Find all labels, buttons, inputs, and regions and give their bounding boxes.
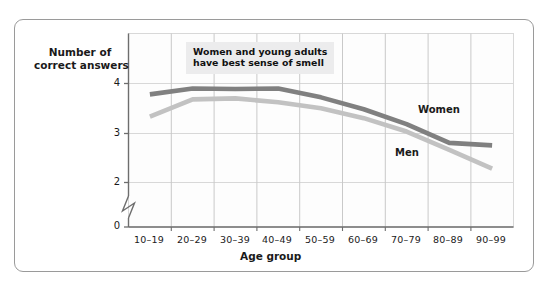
x-tick-label-90-99: 90–99 <box>468 234 514 246</box>
y-tick-label-3: 3 <box>104 127 120 139</box>
y-axis-title-line2: correct answers <box>34 59 129 71</box>
y-axis-title: Number ofcorrect answers <box>34 46 126 72</box>
annotation-line1: Women and young adults <box>193 46 327 57</box>
x-tick-label-20-29: 20–29 <box>169 234 215 246</box>
x-tick-label-40-49: 40–49 <box>254 234 300 246</box>
x-tick-label-70-79: 70–79 <box>383 234 429 246</box>
annotation-callout: Women and young adultshave best sense of… <box>186 42 334 74</box>
y-tick-label-2: 2 <box>104 176 120 188</box>
y-axis-title-line1: Number of <box>49 46 111 58</box>
x-axis-title: Age group <box>240 250 301 263</box>
x-tick-label-30-39: 30–39 <box>212 234 258 246</box>
series-label-men: Men <box>395 147 419 159</box>
series-label-women: Women <box>418 104 460 116</box>
y-tick-label-0: 0 <box>104 220 120 232</box>
annotation-line2: have best sense of smell <box>193 57 324 68</box>
x-tick-label-10-19: 10–19 <box>126 234 172 246</box>
x-tick-label-60-69: 60–69 <box>340 234 386 246</box>
x-tick-label-80-89: 80–89 <box>425 234 471 246</box>
x-tick-label-50-59: 50–59 <box>297 234 343 246</box>
y-tick-label-4: 4 <box>104 77 120 89</box>
